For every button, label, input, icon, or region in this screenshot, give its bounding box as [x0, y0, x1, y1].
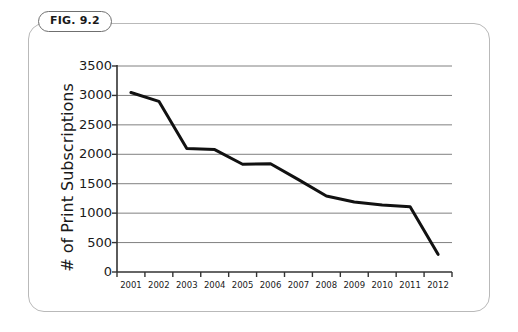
gridlines [117, 66, 452, 243]
line-chart-svg [0, 0, 518, 332]
figure-number-badge: FIG. 9.2 [38, 11, 112, 32]
data-series-line [131, 92, 438, 254]
axes [117, 65, 452, 272]
figure-container: FIG. 9.2 # of Print Subscriptions 050010… [0, 0, 518, 332]
plot-area: # of Print Subscriptions 050010001500200… [0, 0, 518, 332]
